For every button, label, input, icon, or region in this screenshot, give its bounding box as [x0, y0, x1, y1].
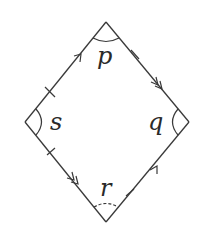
edge-left-top — [25, 22, 106, 122]
angle-arc-q — [173, 109, 179, 135]
edge-bottom-right — [106, 122, 189, 222]
angle-arc-s — [36, 109, 42, 135]
angle-arc-p — [93, 38, 119, 42]
edge-left-bottom — [25, 122, 106, 222]
vertex-label-p: p — [97, 42, 112, 70]
edge-top-right — [106, 22, 189, 122]
vertex-label-r: r — [100, 174, 113, 202]
rhombus-diagram: p s q r — [0, 0, 197, 228]
tick-mark-bottom-right — [126, 189, 134, 196]
vertex-label-q: q — [148, 108, 163, 136]
vertex-label-s: s — [50, 108, 62, 136]
angle-arc-r — [94, 204, 118, 208]
